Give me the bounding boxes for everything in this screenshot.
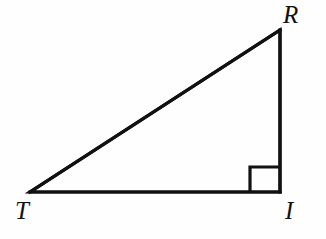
vertex-label-i: I bbox=[285, 198, 293, 223]
vertex-label-t: T bbox=[15, 198, 29, 223]
vertex-label-r: R bbox=[283, 2, 298, 27]
right-triangle-drawing bbox=[0, 0, 326, 239]
geometry-figure: R T I bbox=[0, 0, 326, 239]
right-angle-square-icon bbox=[250, 167, 280, 192]
side-hypotenuse-TR bbox=[30, 30, 280, 192]
